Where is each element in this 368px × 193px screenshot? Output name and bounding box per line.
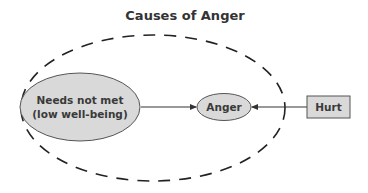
needs-not-met-node bbox=[20, 73, 140, 141]
hurt-label: Hurt bbox=[315, 101, 341, 113]
needs-not-met-label-line1: Needs not met bbox=[37, 94, 124, 106]
causes-of-anger-diagram: Causes of Anger Needs not met (low well-… bbox=[0, 0, 368, 193]
diagram-title: Causes of Anger bbox=[125, 8, 245, 23]
needs-not-met-label-line2: (low well-being) bbox=[32, 108, 127, 120]
anger-label: Anger bbox=[206, 101, 242, 113]
